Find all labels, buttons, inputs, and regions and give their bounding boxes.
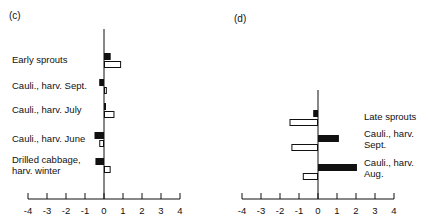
category-label: Cauli., harv. July <box>12 104 82 115</box>
category-label: Aug. <box>364 168 384 179</box>
x-tick-label: -3 <box>43 205 51 216</box>
x-tick-label: -4 <box>24 205 32 216</box>
bar-filled <box>319 136 339 142</box>
category-label: Sept. <box>364 139 386 150</box>
x-tick-label: 3 <box>372 205 377 216</box>
panel-d-category-labels: Late sproutsCauli., harv.Sept.Cauli., ha… <box>364 111 417 179</box>
category-label: Cauli., harv. June <box>12 133 85 144</box>
bar-open <box>105 112 114 118</box>
x-tick-label: -4 <box>238 205 246 216</box>
x-tick-label: 1 <box>120 205 125 216</box>
category-label: Late sprouts <box>364 111 417 122</box>
x-tick-label: 2 <box>353 205 358 216</box>
x-tick-label: 0 <box>101 205 106 216</box>
category-label: harv. winter <box>12 165 60 176</box>
bar-filled <box>319 165 357 171</box>
x-tick-label: 2 <box>139 205 144 216</box>
x-tick-label: -2 <box>276 205 284 216</box>
category-label: Cauli., harv. <box>364 157 414 168</box>
panel-c-label: (c) <box>9 10 21 21</box>
x-tick-label: -2 <box>62 205 70 216</box>
x-tick-label: -1 <box>81 205 89 216</box>
panel-d-x-axis: -4-3-2-101234 <box>238 90 397 216</box>
panel-d-label: (d) <box>234 13 246 24</box>
category-label: Drilled cabbage, <box>12 154 81 165</box>
x-tick-label: -1 <box>295 205 303 216</box>
bar-open <box>303 174 317 180</box>
x-tick-label: 0 <box>315 205 320 216</box>
category-label: Cauli., harv. <box>364 128 414 139</box>
bar-open <box>100 141 104 147</box>
panel-d-chart: (d) Late sproutsCauli., harv.Sept.Cauli.… <box>234 13 417 216</box>
x-tick-label: -3 <box>257 205 265 216</box>
bar-filled <box>100 80 104 86</box>
panel-d-bars <box>290 111 356 180</box>
bar-filled <box>105 54 111 60</box>
panel-c-chart: (c) Early sproutsCauli., harv. Sept.Caul… <box>9 10 183 216</box>
x-tick-label: 1 <box>334 205 339 216</box>
bar-open <box>105 62 121 68</box>
x-tick-label: 4 <box>177 205 182 216</box>
bar-filled <box>96 159 104 165</box>
bar-open <box>292 145 318 151</box>
bar-filled <box>314 111 318 117</box>
bar-open <box>290 120 318 126</box>
panel-c-category-labels: Early sproutsCauli., harv. Sept.Cauli., … <box>12 54 87 176</box>
panel-c-bars <box>95 54 121 173</box>
x-tick-label: 4 <box>391 205 396 216</box>
bar-filled <box>95 133 104 139</box>
bar-open <box>105 88 107 94</box>
category-label: Cauli., harv. Sept. <box>12 80 87 91</box>
category-label: Early sprouts <box>12 54 68 65</box>
figure: (c) Early sproutsCauli., harv. Sept.Caul… <box>0 0 428 222</box>
x-tick-label: 3 <box>158 205 163 216</box>
bar-filled <box>105 104 106 110</box>
bar-open <box>105 167 111 173</box>
